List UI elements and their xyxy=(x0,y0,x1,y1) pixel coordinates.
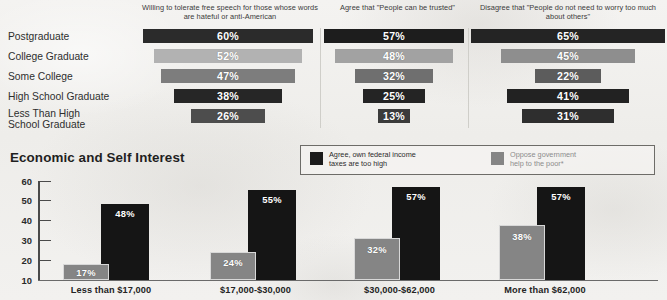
bar-value: 32% xyxy=(355,244,399,255)
bar-value: 47% xyxy=(217,70,239,82)
bar-value: 38% xyxy=(500,231,544,242)
bar-trust-less-than-high-school: 13% xyxy=(378,109,410,123)
bar-value: 32% xyxy=(383,70,405,82)
y-axis-line xyxy=(38,181,40,281)
bar-value: 52% xyxy=(217,50,239,62)
bar-worry-less-than-high-school: 31% xyxy=(522,109,614,123)
bar-value: 24% xyxy=(211,257,255,268)
column-divider-1 xyxy=(320,28,321,128)
row-label-postgraduate: Postgraduate xyxy=(8,31,69,42)
y-tick-label-40: 40 xyxy=(10,215,32,226)
bar-freespeech-high-school-graduate: 38% xyxy=(174,89,282,103)
bar-worry-high-school-graduate: 41% xyxy=(507,89,629,103)
x-axis-label-group-3: $30,000-$62,000 xyxy=(332,285,467,295)
bar-freespeech-less-than-high-school: 26% xyxy=(191,109,265,123)
y-tick-label-20: 20 xyxy=(10,255,32,266)
bar-trust-some-college: 32% xyxy=(355,69,433,83)
bar-oppose-help-poor-group-3: 32% xyxy=(354,238,400,280)
y-tick-label-60: 60 xyxy=(10,176,32,187)
bar-freespeech-college-graduate: 52% xyxy=(154,49,302,63)
bar-oppose-help-poor-group-2: 24% xyxy=(210,252,256,280)
bar-value: 57% xyxy=(383,30,405,42)
bar-freespeech-some-college: 47% xyxy=(161,69,295,83)
bar-value: 48% xyxy=(101,208,149,219)
row-label-high-school-graduate: High School Graduate xyxy=(8,91,109,102)
bar-value: 65% xyxy=(557,30,579,42)
education-attitudes-panel: Willing to tolerate free speech for thos… xyxy=(0,0,667,140)
bar-value: 57% xyxy=(392,191,440,202)
bar-value: 25% xyxy=(383,90,405,102)
bar-value: 31% xyxy=(557,110,579,122)
bar-oppose-help-poor-group-4: 38% xyxy=(499,225,545,280)
column-divider-2 xyxy=(468,28,469,128)
x-axis-label-group-2: $17,000-$30,000 xyxy=(188,285,323,295)
x-axis-label-group-1: Less than $17,000 xyxy=(46,285,176,295)
bar-worry-college-graduate: 45% xyxy=(501,49,635,63)
y-tick-mark-20 xyxy=(38,260,51,261)
y-tick-mark-50 xyxy=(38,200,51,201)
bar-value: 13% xyxy=(383,110,405,122)
row-label-less-than-high-school: Less Than High School Graduate xyxy=(8,108,85,130)
y-tick-mark-40 xyxy=(38,220,51,221)
bar-worry-some-college: 22% xyxy=(535,69,601,83)
bar-value: 48% xyxy=(383,50,405,62)
y-tick-mark-60 xyxy=(38,181,51,182)
x-axis-line xyxy=(38,280,658,281)
bar-trust-high-school-graduate: 25% xyxy=(363,89,425,103)
bar-value: 45% xyxy=(557,50,579,62)
bar-freespeech-postgraduate: 60% xyxy=(143,29,313,43)
bar-value: 26% xyxy=(217,110,239,122)
bar-value: 22% xyxy=(557,70,579,82)
y-tick-label-30: 30 xyxy=(10,235,32,246)
bar-worry-postgraduate: 65% xyxy=(471,29,665,43)
grouped-bar-chart: 60 50 40 30 20 10 48% 17% 55% 24% 57% 32… xyxy=(0,140,667,300)
column-header-people-trusted: Agree that "People can be trusted" xyxy=(325,4,470,13)
bar-trust-college-graduate: 48% xyxy=(335,49,453,63)
y-tick-label-50: 50 xyxy=(10,195,32,206)
bar-value: 17% xyxy=(64,267,108,278)
bar-value: 41% xyxy=(557,90,579,102)
y-tick-mark-30 xyxy=(38,240,51,241)
x-axis-label-group-4: More than $62,000 xyxy=(480,285,610,295)
y-tick-label-10: 10 xyxy=(10,275,32,286)
economic-self-interest-panel: Economic and Self Interest Agree, own fe… xyxy=(0,140,667,300)
bar-value: 57% xyxy=(537,191,585,202)
column-header-worry-about-others: Disagree that "People do not need to wor… xyxy=(472,4,664,21)
row-label-some-college: Some College xyxy=(8,71,73,82)
bar-value: 55% xyxy=(248,194,296,205)
row-label-college-graduate: College Graduate xyxy=(8,51,89,62)
bar-value: 38% xyxy=(217,90,239,102)
column-header-free-speech: Willing to tolerate free speech for thos… xyxy=(140,4,320,21)
bar-oppose-help-poor-group-1: 17% xyxy=(63,264,109,280)
bar-value: 60% xyxy=(217,30,239,42)
bar-trust-postgraduate: 57% xyxy=(324,29,464,43)
